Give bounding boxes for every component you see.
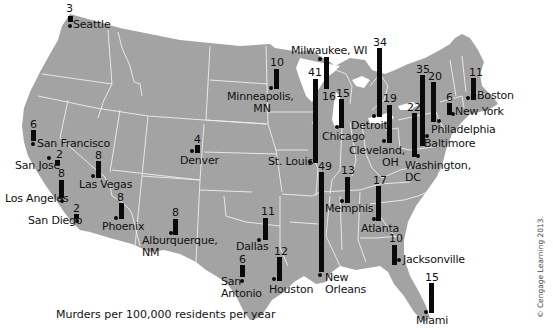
rate-value-minneapolis-mn: 10 — [270, 57, 284, 68]
rate-bar-washington-dc — [412, 113, 417, 157]
rate-value-houston: 12 — [274, 246, 288, 257]
rate-bar-cleveland-oh — [387, 105, 392, 143]
city-label-memphis: Memphis — [325, 203, 373, 215]
rate-value-washington-dc: 22 — [407, 102, 421, 113]
city-label-chicago: Chicago — [322, 131, 365, 143]
rate-value-miami: 15 — [425, 272, 439, 283]
rate-value-memphis: 13 — [341, 165, 355, 176]
rate-bar-new-orleans — [319, 172, 324, 272]
city-dot-denver — [190, 149, 194, 153]
rate-bar-phoenix — [119, 203, 124, 219]
us-murder-rate-map: 3Seattle6San Francisco2San Jose8Los Ange… — [0, 0, 553, 331]
rate-value-cleveland-oh: 19 — [383, 93, 397, 104]
rate-bar-san-francisco — [31, 130, 36, 141]
rate-value-jacksonville: 10 — [389, 233, 403, 244]
rate-bar-boston — [471, 78, 476, 100]
city-label-denver: Denver — [180, 155, 219, 167]
city-label-las-vegas: Las Vegas — [79, 179, 132, 191]
rate-bar-miami — [429, 283, 434, 313]
rate-value-seattle: 3 — [66, 3, 73, 14]
rate-bar-jacksonville — [392, 245, 397, 265]
city-label-st-louis: St. Louis — [268, 156, 313, 168]
rate-value-los-angeles: 8 — [58, 168, 65, 179]
city-label-jacksonville: Jacksonville — [403, 254, 465, 266]
rate-value-san-diego: 2 — [73, 203, 80, 214]
city-dot-milwaukee-wi — [318, 57, 322, 61]
rate-bar-dallas — [263, 218, 268, 240]
rate-value-las-vegas: 8 — [95, 150, 102, 161]
city-label-philadelphia: Philadelphia — [431, 124, 496, 136]
rate-bar-houston — [277, 257, 282, 281]
city-label-boston: Boston — [477, 90, 514, 102]
city-dot-atlanta — [372, 217, 376, 221]
city-label-milwaukee-wi: Milwaukee, WI — [291, 45, 367, 57]
city-label-san-antonio: San Antonio — [221, 276, 262, 300]
rate-value-dallas: 11 — [261, 206, 275, 217]
city-dot-houston — [272, 277, 276, 281]
city-dot-jacksonville — [397, 258, 401, 262]
rate-value-chicago: 15 — [336, 88, 350, 99]
rate-bar-alburquerque-nm — [173, 219, 178, 235]
city-dot-washington-dc — [416, 154, 420, 158]
city-label-dallas: Dallas — [236, 241, 269, 253]
rate-value-phoenix: 8 — [117, 192, 124, 203]
city-dot-detroit — [372, 114, 376, 118]
city-label-detroit: Detroit — [351, 120, 388, 132]
rate-bar-minneapolis-mn — [274, 69, 279, 89]
city-label-new-york: New York — [455, 106, 504, 118]
city-label-alburquerque-nm: Alburquerque, NM — [142, 235, 218, 259]
city-label-baltimore: Baltimore — [424, 138, 475, 150]
city-dot-cleveland-oh — [382, 139, 386, 143]
copyright-credit: © Cengage Learning 2013. — [536, 216, 545, 318]
city-label-san-jose: San Jose — [15, 160, 60, 172]
rate-value-san-francisco: 6 — [30, 119, 37, 130]
city-label-cleveland-oh: Cleveland, OH — [349, 145, 405, 169]
city-dot-new-orleans — [318, 273, 322, 277]
rate-bar-chicago — [339, 99, 344, 128]
rate-bar-las-vegas — [96, 161, 101, 178]
rate-bar-denver — [195, 145, 200, 153]
city-dot-boston — [466, 96, 470, 100]
map-caption: Murders per 100,000 residents per year — [56, 308, 275, 321]
rate-value-boston: 11 — [469, 67, 483, 78]
rate-value-milwaukee-wi: 16 — [322, 91, 336, 102]
rate-value-new-york: 6 — [446, 92, 453, 103]
rate-bar-memphis — [345, 177, 350, 203]
rate-value-san-antonio: 6 — [239, 254, 246, 265]
rate-value-alburquerque-nm: 8 — [172, 207, 179, 218]
city-label-washington-dc: Washington, DC — [405, 160, 471, 184]
city-dot-san-francisco — [31, 142, 35, 146]
city-label-minneapolis-mn: Minneapolis, MN — [227, 91, 294, 115]
city-label-seattle: Seattle — [73, 19, 111, 31]
city-label-los-angeles: Los Angeles — [5, 193, 69, 205]
city-label-miami: Miami — [416, 315, 448, 327]
city-dot-seattle — [68, 24, 72, 28]
city-label-houston: Houston — [269, 284, 313, 296]
rate-value-st-louis: 41 — [308, 67, 322, 78]
rate-value-detroit: 34 — [373, 37, 387, 48]
rate-bar-milwaukee-wi — [324, 57, 329, 89]
rate-value-denver: 4 — [194, 134, 201, 145]
city-label-san-diego: San Diego — [28, 215, 82, 227]
rate-value-new-orleans: 49 — [318, 161, 332, 172]
city-label-phoenix: Phoenix — [102, 221, 144, 233]
rate-bar-detroit — [377, 48, 382, 117]
city-dot-chicago — [335, 125, 339, 129]
rate-bar-atlanta — [376, 186, 381, 221]
rate-bar-st-louis — [313, 79, 318, 163]
rate-value-atlanta: 17 — [373, 175, 387, 186]
rate-bar-philadelphia — [431, 82, 436, 122]
city-label-new-orleans: New Orleans — [325, 272, 366, 296]
rate-value-philadelphia: 20 — [428, 71, 442, 82]
